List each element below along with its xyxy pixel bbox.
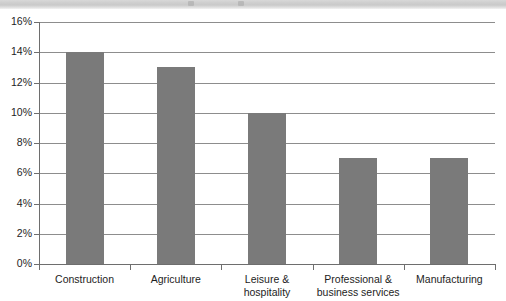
y-tick-mark: [34, 83, 40, 84]
y-tick-label: 6%: [2, 167, 32, 178]
x-axis-labels: ConstructionAgricultureLeisure & hospita…: [39, 273, 496, 301]
x-tick-mark: [313, 265, 314, 270]
x-tick-mark: [495, 265, 496, 270]
bar-chart-figure: 0%2%4%6%8%10%12%14%16% ConstructionAgric…: [0, 0, 506, 301]
bars-layer: [39, 22, 495, 264]
scan-artifact-band: [0, 0, 506, 9]
scan-smudge-icon: [188, 1, 194, 6]
x-tick-label: Construction: [39, 273, 130, 286]
y-tick-mark: [34, 173, 40, 174]
bar-professional-business-services[interactable]: [339, 158, 377, 264]
y-tick-label: 16%: [2, 16, 32, 27]
y-tick-mark: [34, 143, 40, 144]
y-tick-label: 4%: [2, 198, 32, 209]
y-tick-mark: [34, 22, 40, 23]
scan-smudge-icon: [238, 1, 244, 6]
y-tick-mark: [34, 204, 40, 205]
y-tick-mark: [34, 113, 40, 114]
bar-agriculture[interactable]: [157, 67, 195, 264]
y-tick-label: 14%: [2, 46, 32, 57]
y-tick-label: 8%: [2, 137, 32, 148]
y-axis-labels: 0%2%4%6%8%10%12%14%16%: [0, 0, 32, 301]
x-tick-label: Manufacturing: [404, 273, 495, 286]
bar-leisure-hospitality[interactable]: [248, 113, 286, 264]
y-tick-mark: [34, 52, 40, 53]
y-tick-mark: [34, 234, 40, 235]
y-tick-label: 12%: [2, 77, 32, 88]
x-tick-mark: [404, 265, 405, 270]
bar-construction[interactable]: [66, 52, 104, 264]
bar-manufacturing[interactable]: [430, 158, 468, 264]
x-tick-label: Professional & business services: [313, 273, 404, 298]
x-axis-line: [39, 264, 496, 265]
y-tick-label: 2%: [2, 228, 32, 239]
x-tick-mark: [130, 265, 131, 270]
x-tick-mark: [39, 265, 40, 270]
x-tick-label: Agriculture: [130, 273, 221, 286]
x-tick-mark: [221, 265, 222, 270]
y-tick-label: 0%: [2, 258, 32, 269]
y-tick-label: 10%: [2, 107, 32, 118]
x-tick-label: Leisure & hospitality: [221, 273, 312, 298]
